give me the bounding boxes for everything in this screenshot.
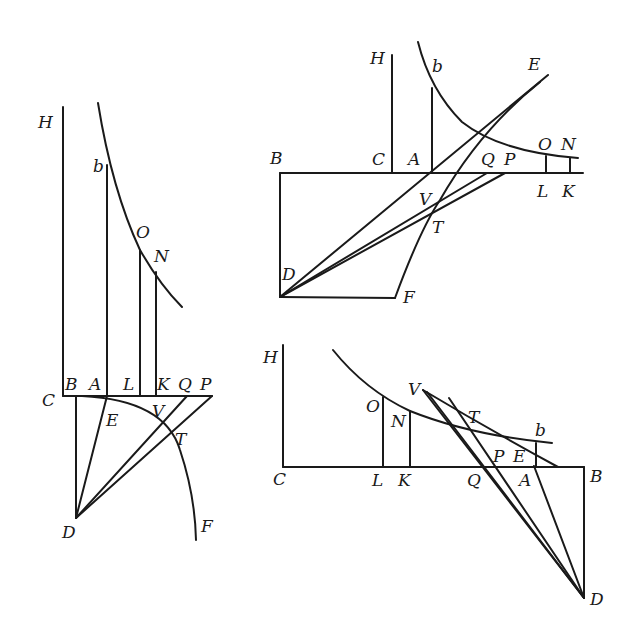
label-V: V — [152, 401, 166, 421]
label-C: C — [42, 390, 55, 410]
line-DF — [280, 297, 395, 298]
line-TPD — [449, 398, 584, 598]
label-P: P — [503, 149, 516, 169]
label-F: F — [200, 516, 214, 536]
label-E: E — [527, 54, 541, 74]
label-H: H — [37, 112, 54, 132]
label-T: T — [175, 429, 188, 449]
label-L: L — [122, 374, 134, 394]
figure-top-right: H b E B C A Q P O N L K V T D F — [269, 42, 583, 307]
label-O: O — [538, 134, 552, 154]
figure-bottom-right: H O N V T b P E C L K Q A B D — [262, 345, 604, 609]
label-N: N — [560, 134, 577, 154]
label-N: N — [390, 411, 407, 431]
label-D: D — [589, 589, 604, 609]
label-E: E — [512, 446, 526, 466]
label-K: K — [156, 374, 171, 394]
figure-left: H b O N C B A L K Q P E V T D F — [37, 103, 214, 542]
label-E: E — [105, 410, 119, 430]
label-F: F — [402, 287, 416, 307]
label-D: D — [281, 264, 296, 284]
label-L: L — [371, 470, 383, 490]
label-b: b — [93, 156, 104, 176]
label-K: K — [561, 181, 576, 201]
label-B: B — [64, 374, 78, 394]
label-A: A — [406, 149, 420, 169]
label-Q: Q — [467, 470, 481, 490]
label-H: H — [262, 347, 279, 367]
line-DQ — [76, 396, 187, 518]
label-O: O — [366, 396, 380, 416]
line-AD — [534, 466, 584, 598]
label-N: N — [153, 246, 170, 266]
label-A: A — [517, 470, 531, 490]
line-VQD — [427, 392, 584, 598]
label-L: L — [536, 181, 548, 201]
label-P: P — [199, 374, 212, 394]
label-D: D — [61, 522, 76, 542]
curve-EF — [82, 396, 196, 540]
label-C: C — [273, 469, 286, 489]
label-K: K — [397, 470, 412, 490]
label-T: T — [432, 217, 445, 237]
line-DE — [280, 75, 548, 297]
label-H: H — [369, 48, 386, 68]
label-b: b — [432, 56, 443, 76]
label-O: O — [136, 222, 150, 242]
label-b: b — [535, 420, 546, 440]
label-P: P — [492, 446, 505, 466]
label-T: T — [468, 407, 481, 427]
label-B: B — [269, 148, 283, 168]
label-B: B — [589, 466, 603, 486]
label-Q: Q — [178, 374, 192, 394]
label-V: V — [408, 379, 422, 399]
curve-FTE — [395, 82, 540, 298]
label-C: C — [372, 149, 385, 169]
label-A: A — [87, 374, 101, 394]
geometry-diagram: H b O N C B A L K Q P E V T D F H b E B … — [0, 0, 640, 644]
label-Q: Q — [481, 149, 495, 169]
line-DQ — [280, 173, 487, 297]
label-V: V — [419, 189, 433, 209]
line-DP — [280, 173, 505, 297]
